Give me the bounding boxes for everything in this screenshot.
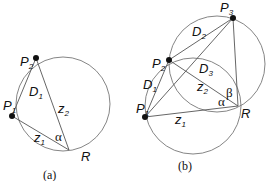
diagram-canvas: P2 P1 D1 z2 z1 α R (a) P3 P2 P1 D2 D1 D3… [0,0,266,181]
caption-a: (a) [43,168,56,181]
label-p2-b: P2 [152,56,166,73]
label-z2-a: z2 [57,101,70,118]
label-p1-a: P1 [3,98,16,115]
label-beta-b: β [226,85,233,100]
caption-b: (b) [178,159,192,173]
label-d3-b: D3 [199,61,213,78]
label-z2-b: z2 [196,79,209,96]
label-p3-b: P3 [220,0,234,17]
label-r-a: R [81,149,90,164]
label-d2-b: D2 [192,24,206,41]
label-d1-b: D1 [143,77,157,94]
figure-b: P3 P2 P1 D2 D1 D3 z2 z1 α β R (b) [136,0,265,173]
label-p1-b: P1 [136,101,149,118]
label-z1-b: z1 [174,112,186,129]
label-r-b: R [241,106,250,121]
label-z1-a: z1 [33,130,45,147]
label-alpha-a: α [55,129,62,144]
point-p2-b [166,57,172,63]
figure-a: P2 P1 D1 z2 z1 α R (a) [3,54,110,181]
segment-z3-b [233,18,238,106]
point-p2-a [33,55,39,61]
label-d1-a: D1 [29,84,43,101]
label-alpha-b: α [218,94,225,109]
label-p2-a: P2 [20,54,34,71]
